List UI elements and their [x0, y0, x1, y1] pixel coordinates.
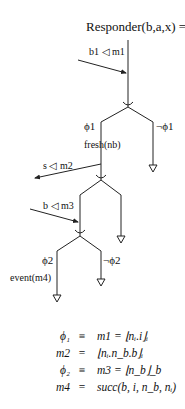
definition-lhs: m2: [38, 345, 70, 361]
branch1-true-label: ϕ1: [84, 121, 95, 132]
definition-op: =: [75, 345, 89, 361]
definition-lhs: ϕ₁: [38, 328, 70, 344]
m1-arrow: [78, 60, 126, 73]
message-label-m3: b ◁ m3: [43, 201, 74, 211]
fork3-left: [57, 236, 80, 295]
fork3-right: [80, 236, 101, 279]
message-label-m1: b1 ◁ m1: [89, 47, 125, 57]
action-fresh-label: fresh(nb): [84, 140, 121, 150]
fork2-left: [80, 180, 101, 236]
fork2-right: [101, 180, 121, 236]
definition-rhs: succ(b, i, n_b, nᵢ): [97, 379, 176, 395]
definition-rhs: ⌊nᵢ.n_b.b⌋ᵢ: [97, 345, 143, 361]
definition-rhs: m1 = ⌊nᵢ.i⌋ᵢ: [97, 328, 148, 344]
branch3-false-label: ¬ϕ2: [103, 255, 121, 266]
terminal-triangle-4: [97, 279, 105, 286]
definition-row: ϕ₁ ≡ m1 = ⌊nᵢ.i⌋ᵢ: [0, 328, 185, 344]
definition-lhs: m4: [38, 379, 70, 395]
action-event-label: event(m4): [10, 273, 51, 283]
terminal-triangle-1: [149, 165, 157, 172]
definition-rhs: m3 = ⌊n_b⌋_b: [97, 362, 161, 378]
message-label-m2: s ◁ m2: [43, 161, 73, 171]
definition-op: ≡: [75, 328, 89, 344]
terminal-triangle-3: [53, 295, 61, 302]
branch1-false-label: ¬ϕ1: [156, 121, 174, 132]
definition-row: m2 = ⌊nᵢ.n_b.b⌋ᵢ: [0, 345, 185, 361]
diagram-title: Responder(b,a,x) =: [86, 20, 185, 33]
definition-op: ≡: [75, 362, 89, 378]
definition-lhs: ϕ₂: [38, 362, 70, 378]
terminal-triangle-2: [117, 236, 125, 243]
branch3-true-label: ϕ2: [42, 255, 53, 266]
definition-row: ϕ₂ ≡ m3 = ⌊n_b⌋_b: [0, 362, 185, 378]
definition-op: =: [75, 379, 89, 395]
definition-row: m4 = succ(b, i, n_b, nᵢ): [0, 379, 185, 395]
fork1-right: [128, 107, 153, 165]
